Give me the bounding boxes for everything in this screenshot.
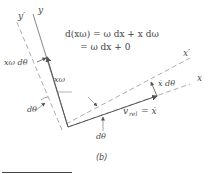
equation-line-1: d(xω) = ω dx + x dω bbox=[65, 29, 159, 39]
xdot-dtheta-label: ẋ dθ bbox=[158, 79, 175, 88]
y-label: y bbox=[37, 5, 44, 15]
figure-caption: (b) bbox=[96, 153, 107, 162]
x-omega-label: xω bbox=[54, 75, 66, 84]
x-omega-dtheta-vector bbox=[37, 58, 46, 62]
x-omega-dtheta-label: xω dθ bbox=[4, 58, 28, 67]
svg-text:rel: rel bbox=[129, 110, 137, 117]
v-rel-label: v rel = ẋ bbox=[123, 106, 156, 117]
xdot-dtheta-vector bbox=[151, 82, 157, 96]
dtheta-left-arc bbox=[41, 97, 48, 100]
dtheta-left-label: dθ bbox=[27, 105, 37, 114]
kinematics-diagram: y′ y x′ x d(xω) = ω dx + x dω = ω dx + 0… bbox=[0, 0, 208, 174]
dtheta-bottom-leader-upper bbox=[88, 97, 97, 106]
svg-text:= ẋ: = ẋ bbox=[141, 106, 156, 116]
y-prime-label: y′ bbox=[17, 11, 25, 21]
x-prime-label: x′ bbox=[183, 48, 190, 58]
x-label: x bbox=[197, 73, 202, 83]
equation-line-2: = ω dx + 0 bbox=[80, 42, 131, 52]
svg-text:v: v bbox=[123, 106, 128, 116]
dtheta-bottom-label: dθ bbox=[96, 132, 106, 141]
